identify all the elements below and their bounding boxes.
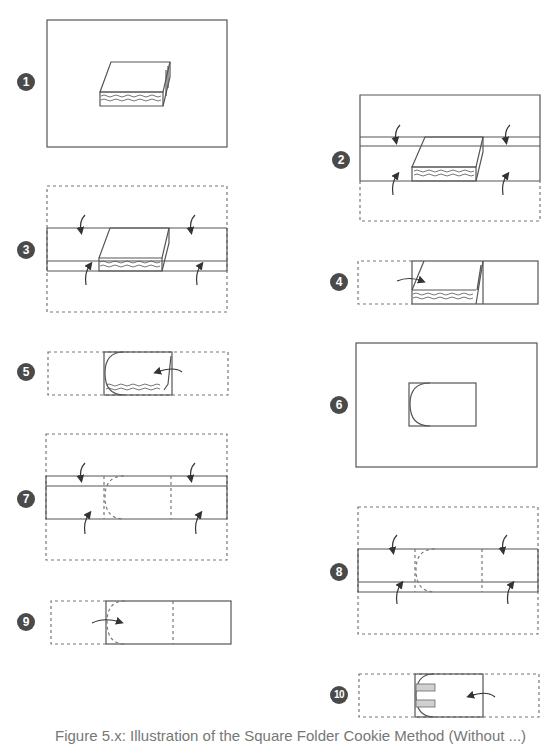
step-badge-5: 5 <box>17 363 35 381</box>
step-badge-9: 9 <box>17 613 35 631</box>
step-3-arrows <box>81 215 202 285</box>
step-2-arrows <box>393 125 511 195</box>
step-badge-2: 2 <box>332 151 350 169</box>
step-3-panel <box>47 186 227 312</box>
step-8-panel <box>358 507 538 634</box>
step-7-panel <box>46 434 227 560</box>
step-badge-7: 7 <box>17 490 35 508</box>
step-badge-6: 6 <box>330 396 348 414</box>
step-8-arrows <box>393 535 513 604</box>
step-7-arrows <box>81 463 201 534</box>
step-4-arrow <box>397 279 422 282</box>
step-badge-4: 4 <box>330 273 348 291</box>
step-6-panel <box>356 343 537 467</box>
step-badge-10: 10 <box>330 686 348 704</box>
step-5-panel <box>48 352 228 395</box>
step-4-panel <box>358 261 538 304</box>
step-10-panel <box>359 674 539 717</box>
step-1-panel <box>47 20 227 147</box>
figure-caption: Figure 5.x: Illustration of the Square F… <box>55 727 535 745</box>
step-badge-1: 1 <box>17 73 35 91</box>
step-9-panel <box>51 601 231 644</box>
step-2-panel <box>360 95 540 221</box>
step-badge-8: 8 <box>330 563 348 581</box>
step-badge-3: 3 <box>17 241 35 259</box>
